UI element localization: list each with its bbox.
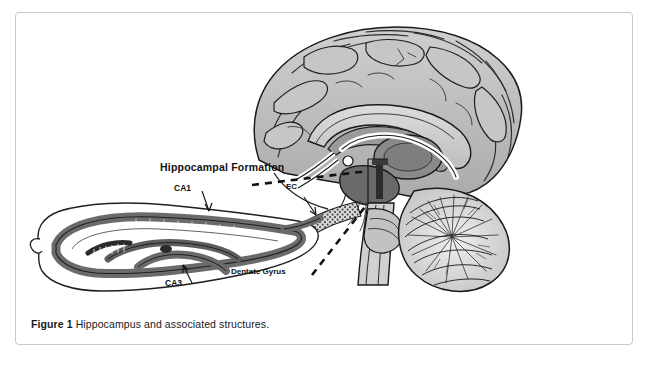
figure-page: Hippocampal Formation CA1 CA3 EC Dentate… bbox=[0, 0, 651, 368]
figure-caption: Figure 1 Hippocampus and associated stru… bbox=[31, 318, 591, 330]
figure-artwork bbox=[16, 13, 632, 305]
label-hippocampal-formation: Hippocampal Formation bbox=[160, 161, 284, 173]
label-ca1: CA1 bbox=[174, 183, 191, 193]
label-dentate-gyrus: Dentate Gyrus bbox=[231, 267, 286, 276]
figure-caption-text: Hippocampus and associated structures. bbox=[76, 318, 269, 330]
figure-caption-label: Figure 1 bbox=[31, 318, 73, 330]
label-ca3: CA3 bbox=[165, 278, 182, 288]
label-ec: EC bbox=[286, 182, 297, 191]
cerebellum-illustration bbox=[399, 188, 510, 291]
